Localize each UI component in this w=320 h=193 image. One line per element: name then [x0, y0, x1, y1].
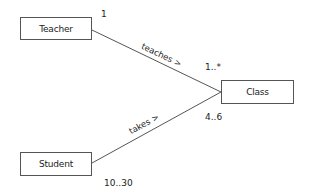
class-label-student: Student — [39, 159, 73, 169]
teaches-association-line — [92, 30, 221, 92]
class-label-class: Class — [246, 87, 269, 97]
takes-association-line — [92, 92, 221, 163]
multiplicity-class-takes: 4..6 — [205, 112, 222, 122]
multiplicity-teacher: 1 — [101, 9, 107, 19]
class-label-teacher: Teacher — [39, 24, 73, 34]
multiplicity-class-teaches: 1..* — [205, 62, 221, 72]
class-box-class[interactable]: Class — [221, 80, 294, 104]
class-box-teacher[interactable]: Teacher — [20, 17, 92, 40]
multiplicity-student: 10..30 — [104, 178, 133, 188]
class-box-student[interactable]: Student — [20, 152, 92, 176]
